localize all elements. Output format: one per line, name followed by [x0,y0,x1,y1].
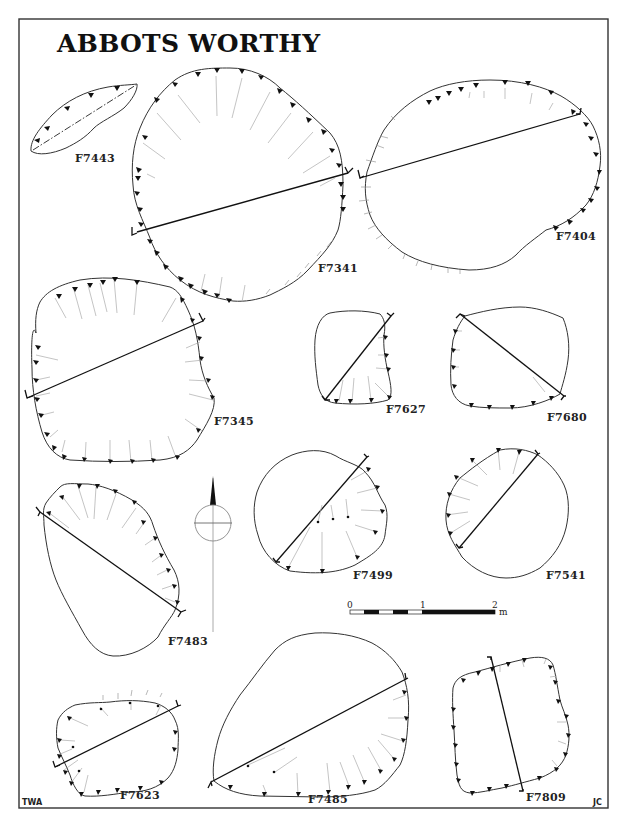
feature-label: F7345 [214,415,254,428]
feature-label: F7680 [547,411,587,424]
feature-F7623: F7623 [53,690,181,802]
figure-frame [19,19,608,808]
feature-F7483: F7483 [36,484,208,656]
feature-F7341: F7341 [132,68,358,303]
site-plan-drawing: ABBOTS WORTHY F7443 F7341 [0,0,629,824]
feature-F7680: F7680 [451,307,587,424]
drawn-by-credit-left: TWA [22,798,43,807]
feature-F7485: F7485 [208,633,409,806]
drawn-by-credit-right: JC [592,798,602,807]
scale-label-1: 1 [420,600,426,610]
feature-label: F7627 [386,403,426,416]
feature-F7809: F7809 [451,657,571,804]
feature-label: F7809 [526,791,566,804]
feature-label: F7341 [318,262,358,275]
feature-F7627: F7627 [315,311,426,416]
feature-label: F7485 [308,793,348,806]
feature-F7404: F7404 [358,80,602,274]
feature-F7541: F7541 [446,448,586,582]
feature-label: F7483 [168,635,208,648]
scale-bar: 0 1 2 m [347,600,508,617]
feature-label: F7404 [556,230,596,243]
feature-F7345: F7345 [25,277,254,464]
scale-unit: m [499,607,508,617]
feature-F7499: F7499 [254,451,393,582]
feature-label: F7443 [75,152,115,165]
feature-F7443: F7443 [31,84,137,165]
figure-caption-clipped [20,817,420,824]
feature-label: F7499 [353,569,393,582]
figure-title: ABBOTS WORTHY [56,29,321,58]
north-arrow-icon [194,476,232,632]
feature-label: F7623 [120,789,160,802]
scale-label-2: 2 [492,600,498,610]
scale-label-0: 0 [347,600,353,610]
feature-label: F7541 [546,569,586,582]
